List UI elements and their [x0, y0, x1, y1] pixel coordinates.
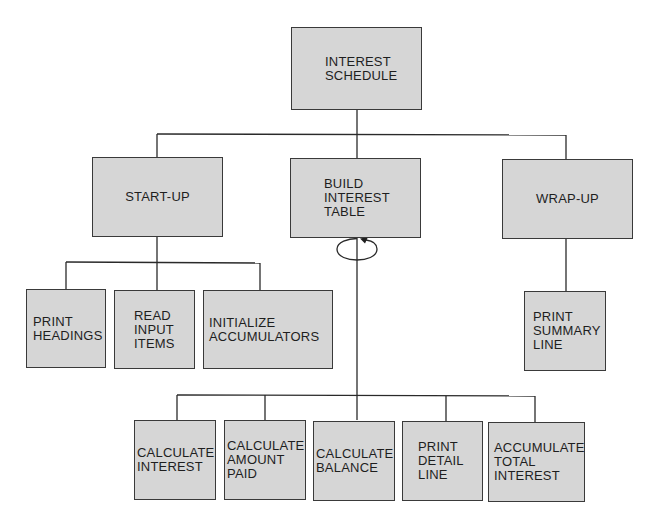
box-wrap-up: WRAP-UP: [502, 159, 633, 239]
box-label: PRINT HEADINGS: [33, 315, 103, 343]
box-build-interest-table: BUILD INTEREST TABLE: [290, 158, 421, 238]
box-read-input-items: READ INPUT ITEMS: [114, 290, 195, 369]
box-label: CALCULATE INTEREST: [137, 446, 214, 474]
box-accumulate-total-interest: ACCUMULATE TOTAL INTEREST: [488, 422, 585, 502]
box-label: INITIALIZE ACCUMULATORS: [209, 316, 319, 344]
box-label: INTEREST SCHEDULE: [325, 55, 397, 83]
box-start-up: START-UP: [92, 157, 223, 237]
box-label: START-UP: [125, 190, 190, 204]
box-label: PRINT DETAIL LINE: [418, 440, 464, 482]
box-print-headings: PRINT HEADINGS: [26, 289, 106, 368]
box-label: CALCULATE BALANCE: [316, 447, 393, 475]
box-initialize-accumulators: INITIALIZE ACCUMULATORS: [203, 290, 333, 369]
box-label: ACCUMULATE TOTAL INTEREST: [494, 441, 585, 483]
box-label: WRAP-UP: [536, 192, 599, 206]
box-calculate-interest: CALCULATE INTEREST: [134, 420, 216, 500]
box-label: BUILD INTEREST TABLE: [324, 177, 390, 219]
hierarchy-chart: INTEREST SCHEDULE START-UP BUILD INTERES…: [0, 0, 652, 526]
box-print-detail-line: PRINT DETAIL LINE: [402, 421, 483, 501]
box-calculate-balance: CALCULATE BALANCE: [313, 421, 395, 501]
box-print-summary-line: PRINT SUMMARY LINE: [524, 291, 606, 371]
box-label: READ INPUT ITEMS: [134, 309, 175, 351]
box-calculate-amount-paid: CALCULATE AMOUNT PAID: [224, 420, 306, 500]
box-label: PRINT SUMMARY LINE: [533, 310, 601, 352]
box-label: CALCULATE AMOUNT PAID: [227, 439, 304, 481]
box-interest-schedule: INTEREST SCHEDULE: [291, 27, 422, 110]
